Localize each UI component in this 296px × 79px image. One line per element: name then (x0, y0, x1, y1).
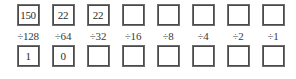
bit-box-2[interactable]: 0 (52, 45, 75, 67)
worksheet-column-3: 22 ÷32 (81, 4, 115, 67)
worksheet-column-8: ÷1 (256, 4, 290, 67)
bit-box-3[interactable] (87, 45, 110, 67)
remainder-box-2[interactable]: 22 (52, 4, 75, 26)
worksheet-column-1: 150 ÷128 1 (11, 4, 45, 67)
divisor-label-2: ÷64 (55, 26, 71, 45)
worksheet-columns: 150 ÷128 1 22 ÷64 0 22 ÷32 ÷16 ÷8 ÷4 (0, 0, 296, 67)
remainder-box-7[interactable] (227, 4, 250, 26)
worksheet-column-4: ÷16 (116, 4, 150, 67)
worksheet-column-6: ÷4 (186, 4, 220, 67)
divisor-label-4: ÷16 (125, 26, 141, 45)
divisor-label-6: ÷4 (197, 26, 208, 45)
remainder-box-1[interactable]: 150 (17, 4, 40, 26)
divisor-label-3: ÷32 (90, 26, 106, 45)
remainder-box-5[interactable] (157, 4, 180, 26)
remainder-box-6[interactable] (192, 4, 215, 26)
divisor-label-5: ÷8 (162, 26, 173, 45)
remainder-box-3[interactable]: 22 (87, 4, 110, 26)
bit-box-4[interactable] (122, 45, 145, 67)
bit-box-6[interactable] (192, 45, 215, 67)
bit-box-1[interactable]: 1 (17, 45, 40, 67)
bit-box-5[interactable] (157, 45, 180, 67)
worksheet-column-5: ÷8 (151, 4, 185, 67)
bit-box-8[interactable] (262, 45, 285, 67)
divisor-label-1: ÷128 (17, 26, 39, 45)
bit-box-7[interactable] (227, 45, 250, 67)
worksheet-column-7: ÷2 (221, 4, 255, 67)
remainder-box-4[interactable] (122, 4, 145, 26)
binary-division-worksheet: 150 ÷128 1 22 ÷64 0 22 ÷32 ÷16 ÷8 ÷4 (0, 0, 296, 79)
divisor-label-8: ÷1 (267, 26, 278, 45)
remainder-box-8[interactable] (262, 4, 285, 26)
divisor-label-7: ÷2 (232, 26, 243, 45)
worksheet-column-2: 22 ÷64 0 (46, 4, 80, 67)
